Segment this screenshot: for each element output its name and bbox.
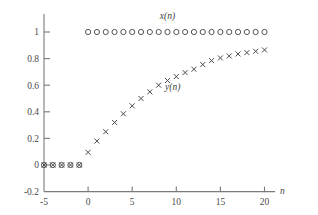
marker-circle-xn: [209, 29, 214, 34]
marker-x-yn: [112, 120, 117, 125]
marker-x-yn: [130, 103, 135, 108]
marker-circle-xn: [165, 29, 170, 34]
marker-x-yn: [183, 70, 188, 75]
marker-circle-xn: [262, 29, 267, 34]
y-axis-tick-label: 0.6: [27, 81, 39, 91]
marker-circle-xn: [183, 29, 188, 34]
marker-x-yn: [262, 47, 267, 52]
marker-x-yn: [86, 150, 91, 155]
marker-circle-xn: [253, 29, 258, 34]
marker-x-yn: [236, 51, 241, 56]
x-axis-tick-label: 0: [86, 197, 91, 207]
marker-x-yn: [77, 163, 82, 168]
marker-circle-xn: [218, 29, 223, 34]
y-axis-tick-label: 1: [34, 27, 39, 37]
series-annotations: x(n)y(n): [159, 11, 181, 93]
series-xn-markers: [41, 29, 267, 167]
marker-x-yn: [191, 67, 196, 72]
marker-circle-xn: [130, 29, 135, 34]
chart-figure: -0.200.20.40.60.81-505101520 x(n)y(n) n: [0, 0, 318, 215]
marker-x-yn: [218, 55, 223, 60]
marker-circle-xn: [86, 29, 91, 34]
marker-x-yn: [253, 49, 258, 54]
marker-x-yn: [103, 129, 108, 134]
x-axis-tick-label: 10: [172, 197, 182, 207]
y-axis-tick-label: 0.2: [27, 134, 39, 144]
marker-x-yn: [147, 89, 152, 94]
series-label-yn: y(n): [164, 82, 180, 93]
x-axis-tick-label: -5: [40, 197, 48, 207]
y-axis-tick-label: 0: [34, 160, 39, 170]
series-yn-markers: [42, 47, 268, 167]
marker-x-yn: [156, 83, 161, 88]
series-label-xn: x(n): [159, 11, 175, 22]
marker-x-yn: [209, 58, 214, 63]
y-axis-tick-label: -0.2: [24, 187, 39, 197]
marker-circle-xn: [200, 29, 205, 34]
x-axis-tick-label: 20: [260, 197, 270, 207]
marker-circle-xn: [147, 29, 152, 34]
x-axis-name: n: [280, 186, 285, 196]
marker-x-yn: [121, 111, 126, 116]
marker-x-yn: [139, 96, 144, 101]
x-axis-tick-label: 15: [216, 197, 226, 207]
x-axis-tick-label: 5: [130, 197, 135, 207]
marker-x-yn: [174, 74, 179, 79]
marker-circle-xn: [191, 29, 196, 34]
axis-tick-labels: -0.200.20.40.60.81-505101520: [24, 27, 270, 206]
marker-circle-xn: [244, 29, 249, 34]
marker-x-yn: [244, 50, 249, 55]
marker-circle-xn: [227, 29, 232, 34]
marker-x-yn: [50, 163, 55, 168]
y-axis-tick-label: 0.8: [27, 54, 39, 64]
marker-x-yn: [68, 163, 73, 168]
marker-x-yn: [94, 139, 99, 144]
marker-x-yn: [59, 163, 64, 168]
marker-circle-xn: [94, 29, 99, 34]
marker-circle-xn: [121, 29, 126, 34]
marker-circle-xn: [138, 29, 143, 34]
y-axis-tick-label: 0.4: [27, 107, 39, 117]
marker-circle-xn: [174, 29, 179, 34]
marker-x-yn: [227, 53, 232, 58]
marker-circle-xn: [235, 29, 240, 34]
x-axis-name-label: n: [280, 186, 285, 196]
marker-circle-xn: [156, 29, 161, 34]
step-response-scatter-chart: -0.200.20.40.60.81-505101520 x(n)y(n) n: [0, 0, 318, 215]
marker-x-yn: [200, 62, 205, 67]
marker-circle-xn: [112, 29, 117, 34]
marker-circle-xn: [103, 29, 108, 34]
